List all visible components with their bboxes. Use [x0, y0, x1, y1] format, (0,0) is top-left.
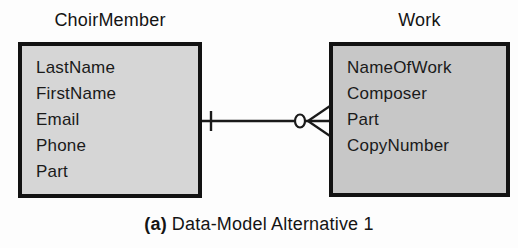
figure-caption-label: (a): [144, 214, 167, 234]
crows-foot-lower-prong: [308, 121, 330, 136]
data-model-diagram: ChoirMember LastNameFirstNameEmailPhoneP…: [0, 0, 518, 248]
figure-caption-text: Data-Model Alternative 1: [172, 214, 374, 234]
cardinality-zero-circle: [295, 115, 305, 128]
crows-foot-upper-prong: [308, 106, 330, 121]
relationship-connector: [0, 0, 518, 248]
figure-caption: (a)Data-Model Alternative 1: [0, 214, 518, 235]
